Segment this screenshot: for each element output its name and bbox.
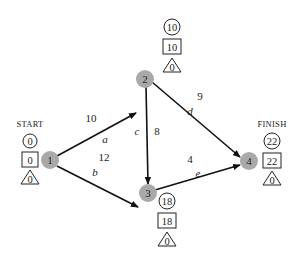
edge-d-activity: d — [187, 105, 193, 117]
node-4-latest: 22 — [267, 156, 278, 167]
edge-d — [152, 82, 240, 157]
node-1: 1 — [41, 151, 59, 169]
node-2-label: 2 — [142, 73, 148, 85]
edge-a-duration: 10 — [86, 112, 98, 124]
edge-c-activity: c — [135, 125, 140, 137]
node-2-latest: 10 — [167, 42, 178, 53]
node-4-label: 4 — [246, 155, 252, 167]
node-1-earliest: 0 — [27, 136, 32, 147]
edge-c-duration: 8 — [154, 125, 160, 137]
finish-caption: FINISH — [257, 119, 286, 129]
node-4-earliest: 22 — [267, 136, 278, 147]
node-3-latest: 18 — [162, 216, 173, 227]
node-2: 2 — [136, 70, 154, 88]
node-1-annotations: START 0 0 0 — [16, 119, 44, 185]
node-3: 3 — [139, 184, 157, 202]
node-3-earliest: 18 — [162, 196, 173, 207]
node-4-annotations: FINISH 22 22 0 — [257, 119, 286, 186]
edge-e-duration: 4 — [187, 153, 193, 165]
node-4: 4 — [240, 152, 258, 170]
network-diagram: 10 a 12 b c 8 9 d 4 e 1 2 3 4 START 0 0 … — [0, 0, 303, 261]
node-3-label: 3 — [145, 187, 151, 199]
node-1-float: 0 — [27, 174, 32, 185]
edge-e-activity: e — [196, 167, 201, 179]
node-2-annotations: 10 10 0 — [163, 19, 181, 73]
edge-d-duration: 9 — [197, 90, 203, 102]
edge-a-activity: a — [102, 133, 108, 145]
node-1-latest: 0 — [27, 155, 32, 166]
edge-b-duration: 12 — [99, 151, 110, 163]
node-3-annotations: 18 18 0 — [158, 193, 176, 247]
edge-labels: 10 a 12 b c 8 9 d 4 e — [86, 90, 204, 179]
edge-a — [57, 113, 136, 156]
node-3-float: 0 — [164, 236, 169, 247]
start-caption: START — [16, 119, 44, 129]
node-4-float: 0 — [269, 175, 274, 186]
node-2-float: 0 — [169, 62, 174, 73]
node-2-earliest: 10 — [167, 22, 178, 33]
edge-c — [146, 86, 148, 184]
edge-b-activity: b — [92, 166, 98, 178]
node-1-label: 1 — [47, 154, 53, 166]
